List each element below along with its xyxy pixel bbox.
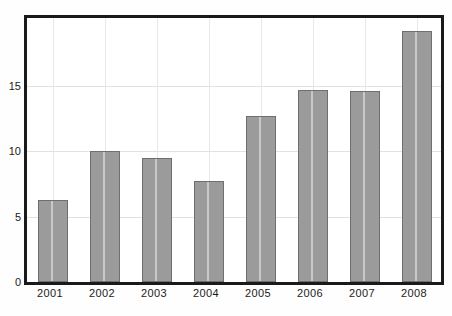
plot-frame [24,15,444,285]
bar-2003 [142,158,172,282]
x-tick-label-2002: 2002 [79,288,125,299]
y-tick-label-0: 0 [0,277,21,288]
plot-area [27,18,441,282]
bar-2001 [38,200,68,282]
bar-2006 [298,90,328,282]
x-tick-label-2004: 2004 [183,288,229,299]
y-tick-label-15: 15 [0,81,21,92]
x-tick-label-2007: 2007 [339,288,385,299]
bar-2004 [194,181,224,282]
x-tick-label-2001: 2001 [27,288,73,299]
bar-2007 [350,91,380,282]
bar-2008 [402,31,432,282]
gridline-y-15 [27,86,441,87]
bar-chart-figure: 15 10 5 0 [0,0,452,316]
bar-2005 [246,116,276,282]
y-tick-label-5: 5 [0,212,21,223]
x-tick-label-2008: 2008 [391,288,437,299]
y-tick-label-10: 10 [0,146,21,157]
x-tick-label-2006: 2006 [287,288,333,299]
x-tick-label-2005: 2005 [235,288,281,299]
x-axis-labels: 2001 2002 2003 2004 2005 2006 2007 2008 [24,288,444,308]
y-axis-labels: 15 10 5 0 [0,15,21,285]
x-tick-label-2003: 2003 [131,288,177,299]
bar-2002 [90,151,120,282]
